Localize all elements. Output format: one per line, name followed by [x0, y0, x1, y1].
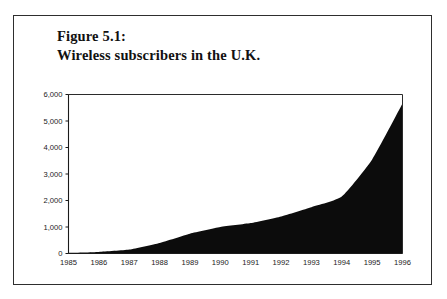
y-axis-tick-labels: 01,0002,0003,0004,0005,0006,000	[43, 90, 62, 258]
y-axis-tick-label: 1,000	[43, 223, 62, 232]
y-axis-tick-label: 2,000	[43, 196, 62, 205]
x-axis-tick-label: 1995	[364, 258, 381, 267]
x-axis-tick-label: 1988	[151, 258, 168, 267]
x-axis-tick-label: 1989	[182, 258, 199, 267]
x-axis-tick-label: 1985	[60, 258, 77, 267]
y-axis-tick-label: 3,000	[43, 170, 62, 179]
y-axis-tick-label: 6,000	[43, 90, 62, 99]
x-axis-tick-label: 1992	[273, 258, 290, 267]
x-axis-tick-label: 1990	[212, 258, 229, 267]
chart-plot-area: 01,0002,0003,0004,0005,0006,000 19851986…	[14, 16, 433, 286]
area-chart-svg: 01,0002,0003,0004,0005,0006,000 19851986…	[14, 16, 433, 286]
x-axis-tick-label: 1987	[121, 258, 138, 267]
x-axis-tick-label: 1996	[394, 258, 411, 267]
y-axis-tick-label: 5,000	[43, 117, 62, 126]
x-axis-tick-label: 1994	[333, 258, 350, 267]
x-axis-tick-label: 1993	[303, 258, 320, 267]
x-axis-tick-labels: 1985198619871988198919901991199219931994…	[60, 258, 411, 267]
x-axis-tick-label: 1991	[242, 258, 259, 267]
series-area-wireless-subscribers	[69, 104, 403, 254]
y-axis-tick-label: 4,000	[43, 143, 62, 152]
x-axis-tick-label: 1986	[90, 258, 107, 267]
figure-border: Figure 5.1: Wireless subscribers in the …	[13, 15, 432, 285]
